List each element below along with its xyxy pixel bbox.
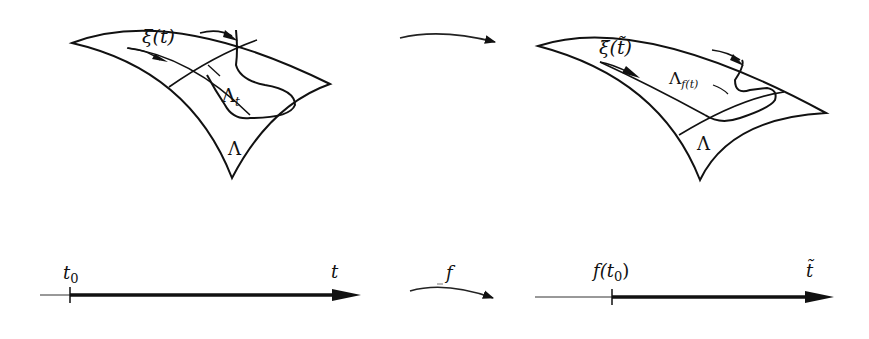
left-surface-label: Λ xyxy=(227,138,242,159)
left-time-axis xyxy=(40,287,361,303)
diagram-svg: ξ(t) Λt Λ ξ̃(t̃) Λf(t) Λ xyxy=(0,0,869,339)
right-axis-end-label: t̃ xyxy=(806,259,815,281)
left-surface xyxy=(72,30,330,178)
top-map-arrow xyxy=(400,34,495,42)
right-grid-line-1 xyxy=(679,92,784,135)
right-region-boundary xyxy=(705,60,776,121)
left-axis-end-label: t xyxy=(331,261,339,282)
bottom-map-label: f xyxy=(444,262,456,283)
left-axis-start-label: t0 xyxy=(63,262,79,286)
right-axis-start-label: f(t0) xyxy=(591,260,629,284)
left-grid-line-1 xyxy=(169,40,257,87)
right-surface-label: Λ xyxy=(696,133,711,154)
left-region-boundary xyxy=(207,30,295,118)
right-surface-outline xyxy=(538,37,826,180)
right-curve-label: ξ̃(t̃) xyxy=(599,36,632,58)
left-region-leader xyxy=(208,65,220,76)
left-surface-outline xyxy=(72,31,330,178)
right-surface xyxy=(538,37,826,180)
left-curve-label: ξ(t) xyxy=(142,25,175,47)
right-time-axis xyxy=(535,289,834,305)
bottom-map-arrow xyxy=(410,287,493,298)
diagram-canvas: ξ(t) Λt Λ ξ̃(t̃) Λf(t) Λ xyxy=(0,0,869,339)
right-region-leader xyxy=(713,85,728,94)
left-region-label: Λt xyxy=(221,85,240,109)
right-region-label: Λf(t) xyxy=(668,68,698,91)
